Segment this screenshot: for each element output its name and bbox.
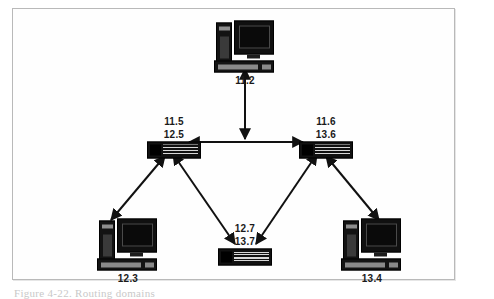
drive-bay	[220, 37, 229, 59]
monitor-screen	[366, 224, 397, 247]
switch-port-bank	[234, 252, 269, 263]
node-switch-left[interactable]: 11.5 12.5	[147, 116, 201, 159]
node-label-switch-right-line1: 11.6	[316, 116, 336, 127]
monitor-stand	[130, 253, 143, 257]
computer-tower	[216, 23, 232, 63]
node-label-switch-right-line2: 13.6	[316, 129, 336, 140]
computer-monitor	[361, 219, 401, 253]
keyboard-keys	[345, 263, 385, 268]
keyboard-keys	[218, 65, 258, 70]
drive-slot	[102, 225, 113, 229]
switch-indicator-block	[221, 252, 232, 263]
monitor-screen	[122, 224, 153, 247]
monitor-stand	[247, 55, 260, 59]
desktop-computer-icon	[214, 21, 276, 73]
desktop-computer-icon	[97, 219, 159, 271]
computer-keyboard	[214, 61, 274, 73]
monitor-screen	[239, 26, 270, 49]
node-pc-top[interactable]: 11.2	[214, 21, 276, 86]
computer-tower	[343, 221, 359, 261]
node-label-switch-bottom-line2: 13.7	[235, 236, 255, 247]
drive-slot	[346, 225, 357, 229]
node-pc-bottom-left[interactable]: 12.3	[97, 219, 159, 284]
computer-tower	[99, 221, 115, 261]
node-pc-bottom-right[interactable]: 13.4	[341, 219, 403, 284]
switch-indicator-block	[302, 145, 313, 156]
monitor-stand	[374, 253, 387, 257]
switch-port-bank	[315, 145, 350, 156]
keyboard-keys	[101, 263, 141, 268]
network-switch-icon	[218, 249, 272, 266]
drive-slot	[219, 27, 230, 31]
node-label-pc-top: 11.2	[235, 75, 255, 86]
link-switch-left-pc-left	[111, 156, 165, 220]
drive-bay	[347, 235, 356, 257]
node-switch-bottom[interactable]: 12.7 13.7	[218, 223, 272, 266]
computer-monitor	[117, 219, 157, 253]
switch-indicator-block	[150, 145, 161, 156]
link-switch-right-pc-right	[326, 156, 379, 220]
node-label-pc-bottom-right: 13.4	[362, 273, 382, 284]
keyboard-keypad	[145, 263, 154, 268]
node-label-pc-bottom-left: 12.3	[118, 273, 138, 284]
switch-port-bank	[163, 145, 198, 156]
figure-caption: Figure 4-22. Routing domains	[14, 287, 155, 299]
keyboard-keypad	[262, 65, 271, 70]
desktop-computer-icon	[341, 219, 403, 271]
node-label-switch-left-line2: 12.5	[164, 129, 184, 140]
network-switch-icon	[299, 142, 353, 159]
computer-monitor	[234, 21, 274, 55]
computer-keyboard	[97, 259, 157, 271]
computer-keyboard	[341, 259, 401, 271]
diagram-panel: 11.2 11.5 12.5 11.6 13.6 12.7 13.7	[12, 8, 455, 280]
node-label-switch-left-line1: 11.5	[164, 116, 184, 127]
node-switch-right[interactable]: 11.6 13.6	[299, 116, 353, 159]
network-switch-icon	[147, 142, 201, 159]
drive-bay	[103, 235, 112, 257]
keyboard-keypad	[389, 263, 398, 268]
node-label-switch-bottom-line1: 12.7	[235, 223, 255, 234]
